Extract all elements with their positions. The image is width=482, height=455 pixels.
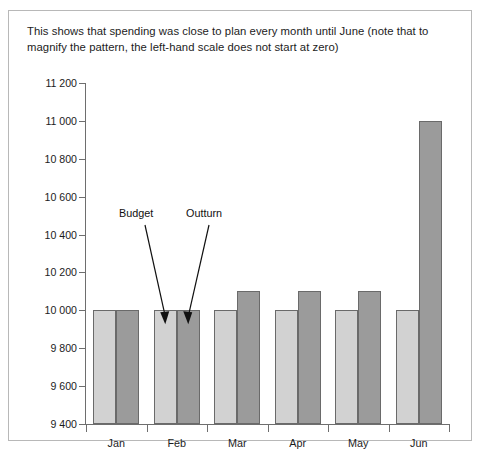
bar-feb-outturn [177, 310, 200, 424]
x-tick [207, 425, 208, 432]
x-tick [328, 425, 329, 432]
bar-apr-outturn [298, 291, 321, 424]
bar-feb-budget [154, 310, 177, 424]
x-tick [268, 425, 269, 432]
x-tick-label-jan: Jan [108, 437, 125, 449]
bar-jan-outturn [116, 310, 139, 424]
x-tick [147, 425, 148, 432]
y-tick-label: 11 000 [21, 115, 77, 127]
chart-caption: This shows that spending was close to pl… [27, 23, 455, 55]
bar-jun-budget [396, 310, 419, 424]
y-tick [79, 272, 86, 273]
y-tick [79, 386, 86, 387]
y-tick-label: 10 600 [21, 191, 77, 203]
y-tick-label: 11 200 [21, 77, 77, 89]
x-tick [86, 425, 87, 432]
outturn-arrow-line [188, 225, 209, 316]
y-tick-label: 10 200 [21, 266, 77, 278]
y-tick-label: 9 800 [21, 342, 77, 354]
y-tick-label: 10 000 [21, 304, 77, 316]
y-tick-label: 10 800 [21, 153, 77, 165]
y-tick [79, 159, 86, 160]
x-tick-label-may: May [348, 437, 368, 449]
y-tick [79, 348, 86, 349]
bar-may-budget [335, 310, 358, 424]
budget-arrow-line [145, 225, 165, 316]
y-tick [79, 235, 86, 236]
annotation-label-budget: Budget [119, 207, 153, 219]
plot-area: 11 20011 00010 80010 60010 40010 20010 0… [77, 79, 451, 427]
bar-apr-budget [275, 310, 298, 424]
x-tick [389, 425, 390, 432]
bar-may-outturn [358, 291, 381, 424]
x-tick-label-apr: Apr [289, 437, 306, 449]
bar-jan-budget [93, 310, 116, 424]
y-tick [79, 83, 86, 84]
y-tick-label: 10 400 [21, 229, 77, 241]
bar-jun-outturn [419, 121, 442, 424]
annotation-label-outturn: Outturn [186, 207, 222, 219]
y-tick [79, 197, 86, 198]
x-tick-label-mar: Mar [228, 437, 247, 449]
x-tick-label-feb: Feb [167, 437, 186, 449]
x-tick-label-jun: Jun [410, 437, 427, 449]
x-tick [449, 425, 450, 432]
y-tick-label: 9 400 [21, 418, 77, 430]
y-tick [79, 424, 86, 425]
bar-mar-outturn [237, 291, 260, 424]
y-tick [79, 121, 86, 122]
figure-frame: This shows that spending was close to pl… [8, 10, 472, 441]
bar-mar-budget [214, 310, 237, 424]
y-tick-label: 9 600 [21, 380, 77, 392]
y-axis-line [85, 83, 86, 425]
y-tick [79, 310, 86, 311]
